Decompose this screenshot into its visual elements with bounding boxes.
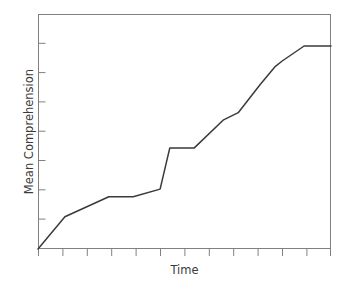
plot-frame (39, 15, 331, 249)
x-axis-ticks (39, 249, 331, 256)
line-chart (0, 0, 349, 290)
figure-container: Mean Comprehension Time (0, 0, 349, 290)
y-axis-label: Mean Comprehension (20, 14, 38, 249)
x-axis-label: Time (38, 263, 331, 277)
